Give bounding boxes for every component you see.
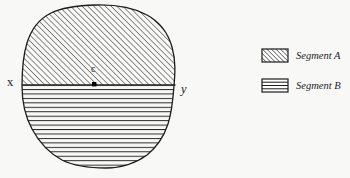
- legend-label-segment-b: Segment B: [296, 81, 341, 92]
- figure-canvas: x y c Segment A Segment B: [0, 0, 350, 178]
- legend-swatch-segment-a: [262, 49, 288, 62]
- label-x: x: [7, 76, 13, 89]
- legend-swatch-segment-b: [262, 79, 288, 92]
- center-point-marker: [92, 82, 96, 86]
- label-center-point: c: [91, 64, 95, 74]
- label-y: y: [181, 83, 187, 96]
- legend-label-segment-a: Segment A: [296, 51, 340, 62]
